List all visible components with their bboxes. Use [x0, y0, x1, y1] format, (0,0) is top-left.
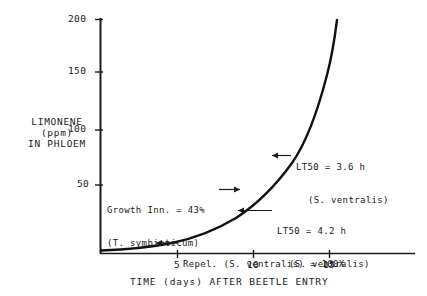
y-tick-label-150: 150: [68, 65, 86, 76]
annotation-repellency: Repel. (S. ventralis) = 100X: [183, 237, 345, 292]
y-tick-label-50: 50: [77, 178, 89, 189]
chart-figure: 200 150 100 50 5 10 15 LIMONENE (ppm) IN…: [0, 0, 427, 296]
y-axis-title-line-3: IN PHLOEM: [17, 138, 97, 149]
lt50-36h-arrow: [272, 153, 291, 159]
annotation-growth-inhibition-line-1: Growth Inn. = 43%: [107, 205, 205, 216]
annotation-lt50-42h-line-1: LT50 = 4.2 h: [277, 226, 370, 237]
lt50-42h-arrow: [238, 208, 272, 214]
annotation-lt50-36h-line-1: LT50 = 3.6 h: [296, 162, 389, 173]
growth-inhibition-arrow: [219, 187, 240, 193]
y-axis-title: LIMONENE (ppm) IN PHLOEM: [17, 116, 97, 149]
y-axis-title-line-1: LIMONENE: [17, 116, 97, 127]
y-tick-label-200: 200: [68, 13, 86, 24]
annotation-repellency-line-1: Repel. (S. ventralis) = 100X: [183, 259, 345, 270]
y-axis-title-line-2: (ppm): [17, 127, 97, 138]
